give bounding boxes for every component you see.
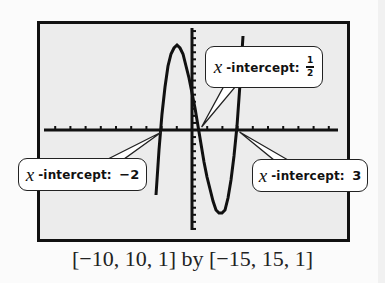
- window-caption: [−10, 10, 1] by [−15, 15, 1]: [0, 246, 385, 272]
- variable-x: x: [26, 164, 34, 186]
- fraction-one-half: 1 2: [306, 56, 314, 78]
- callout-label: -intercept:: [226, 60, 300, 75]
- callout-value: 3: [352, 168, 361, 183]
- variable-x: x: [259, 165, 267, 187]
- callout-x-intercept-3: x -intercept: 3: [252, 159, 368, 192]
- callout-label: -intercept:: [271, 168, 345, 183]
- callout-label: -intercept:: [38, 167, 112, 182]
- variable-x: x: [214, 56, 222, 78]
- callout-x-intercept-half: x -intercept: 1 2: [205, 46, 323, 88]
- denominator: 2: [307, 69, 313, 78]
- numerator: 1: [307, 56, 313, 65]
- graph-plot: [0, 0, 385, 283]
- callout-value: −2: [119, 167, 139, 182]
- callout-x-intercept-neg2: x -intercept: −2: [18, 158, 147, 191]
